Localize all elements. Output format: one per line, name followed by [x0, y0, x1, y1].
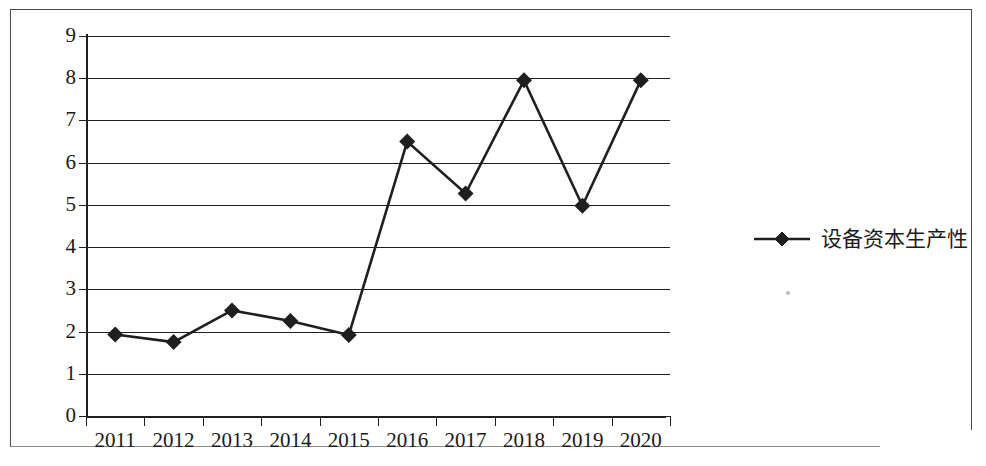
data-point-marker: [575, 199, 589, 213]
series-line: [115, 80, 641, 342]
y-axis-tick-label: 7: [36, 109, 76, 130]
y-axis-tick-label: 9: [36, 25, 76, 46]
x-axis-tick: [436, 416, 437, 426]
data-point-marker: [108, 328, 122, 342]
y-axis-tick: [79, 78, 86, 79]
y-axis-tick: [79, 163, 86, 164]
y-axis-tick-label: 2: [36, 321, 76, 342]
data-point-marker: [283, 314, 297, 328]
x-axis-tick: [320, 416, 321, 426]
scan-artifact-dot: [786, 291, 790, 295]
diamond-marker-icon: [752, 230, 812, 248]
y-axis-tick: [79, 416, 86, 417]
x-axis-ticks: [86, 416, 666, 426]
series-markers: [108, 73, 648, 349]
data-point-marker: [634, 73, 648, 87]
plot-area: [86, 36, 670, 416]
y-axis-tick-label: 3: [36, 278, 76, 299]
series-equipment-capital-productivity: [86, 36, 670, 416]
x-axis-tick: [495, 416, 496, 426]
y-axis-tick: [79, 332, 86, 333]
x-axis-tick: [86, 416, 87, 426]
chart-legend: 设备资本生产性: [752, 228, 968, 250]
data-point-marker: [225, 303, 239, 317]
x-axis-tick-label: 2020: [605, 428, 677, 452]
y-axis-labels: 0123456789: [36, 36, 76, 416]
y-axis-tick: [79, 120, 86, 121]
y-axis-tick-label: 8: [36, 67, 76, 88]
chart-figure: 0123456789 20112012201320142015201620172…: [0, 0, 986, 466]
y-axis-tick: [79, 205, 86, 206]
y-axis-tick-label: 0: [36, 405, 76, 426]
y-axis-tick-label: 1: [36, 363, 76, 384]
data-point-marker: [167, 335, 181, 349]
y-axis-tick: [79, 36, 86, 37]
x-axis-tick: [553, 416, 554, 426]
x-axis-labels: 2011201220132014201520162017201820192020: [86, 428, 670, 458]
x-axis-tick: [261, 416, 262, 426]
y-axis-tick: [79, 374, 86, 375]
y-axis-tick-label: 4: [36, 236, 76, 257]
data-point-marker: [342, 328, 356, 342]
legend-symbol: [752, 230, 812, 248]
y-axis-tick: [79, 247, 86, 248]
x-axis-tick: [612, 416, 613, 426]
x-axis-tick: [144, 416, 145, 426]
y-axis-tick: [79, 289, 86, 290]
y-axis-tick-label: 6: [36, 152, 76, 173]
x-axis-tick: [378, 416, 379, 426]
x-axis-tick: [203, 416, 204, 426]
data-point-marker: [517, 73, 531, 87]
figure-border-fade: [880, 430, 975, 452]
legend-label: 设备资本生产性: [821, 228, 968, 250]
y-axis-tick-label: 5: [36, 194, 76, 215]
x-axis-tick: [670, 416, 671, 426]
